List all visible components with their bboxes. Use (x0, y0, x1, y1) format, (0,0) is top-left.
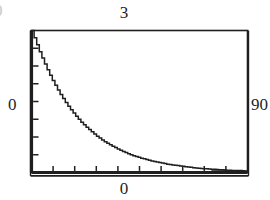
plot-frame (31, 31, 249, 176)
axis-ticks (33, 48, 226, 171)
figure-container: 0 3 0 90 0 (0, 0, 270, 200)
decay-curve (32, 31, 248, 172)
plot-area (0, 0, 270, 200)
